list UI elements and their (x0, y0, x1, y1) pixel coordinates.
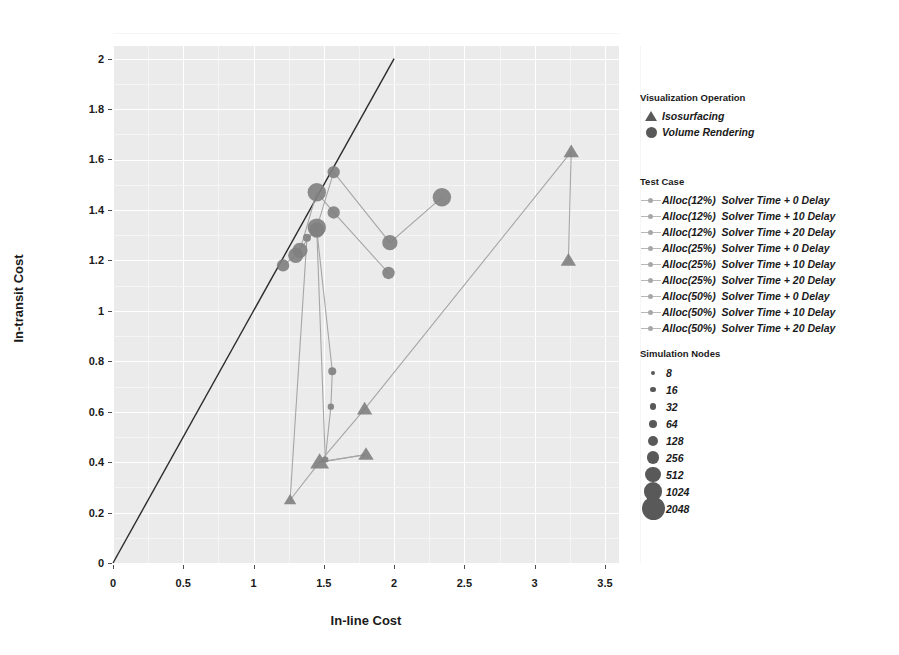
legend-item-simulation-nodes[interactable]: 2048 (640, 500, 720, 517)
legend-item-test-case[interactable]: Alloc(12%) Solver Time + 20 Delay (640, 224, 835, 240)
x-tick-label: 3.5 (597, 577, 612, 589)
legend-key-size-dot (640, 420, 666, 428)
data-point-circle[interactable] (277, 259, 289, 271)
line-marker-icon (641, 275, 661, 285)
y-tick-label: 1.2 (89, 254, 104, 266)
legend-item-simulation-nodes[interactable]: 256 (640, 449, 720, 466)
legend-key-size-dot (640, 387, 666, 392)
legend-label: 128 (666, 435, 684, 447)
legend-key-line (640, 275, 662, 285)
legend-label: Alloc(50%) Solver Time + 20 Delay (662, 322, 835, 334)
data-point-circle[interactable] (382, 267, 394, 279)
y-tick-mark (108, 59, 112, 60)
legend-item-simulation-nodes[interactable]: 8 (640, 364, 720, 381)
legend-key-line (640, 227, 662, 237)
x-tick-label: 0.5 (176, 577, 191, 589)
x-tick-mark (605, 565, 606, 569)
series-line (365, 152, 572, 409)
y-tick-label: 0.6 (89, 406, 104, 418)
legend-item-simulation-nodes[interactable]: 512 (640, 466, 720, 483)
legend-item-simulation-nodes[interactable]: 128 (640, 432, 720, 449)
data-point-circle[interactable] (328, 367, 336, 375)
legend-label: 16 (666, 384, 678, 396)
line-marker-icon (641, 291, 661, 301)
x-tick-label: 3 (532, 577, 538, 589)
legend-item-visualization-operation[interactable]: Volume Rendering (640, 124, 754, 140)
y-tick-mark (108, 361, 112, 362)
y-tick-mark (108, 412, 112, 413)
legend-test-case: Test Case Alloc(12%) Solver Time + 0 Del… (640, 176, 835, 336)
legend-item-simulation-nodes[interactable]: 64 (640, 415, 720, 432)
legend-label: Alloc(25%) Solver Time + 10 Delay (662, 258, 835, 270)
legend-key-line (640, 323, 662, 333)
y-tick-mark (108, 513, 112, 514)
legend-label: 1024 (666, 486, 689, 498)
legend-item-test-case[interactable]: Alloc(50%) Solver Time + 10 Delay (640, 304, 835, 320)
data-point-circle[interactable] (327, 166, 339, 178)
circle-icon (650, 403, 656, 409)
legend-label: Alloc(25%) Solver Time + 20 Delay (662, 274, 835, 286)
data-point-circle[interactable] (327, 206, 339, 218)
y-tick-mark (108, 210, 112, 211)
x-tick-label: 1 (250, 577, 256, 589)
data-point-triangle[interactable] (284, 494, 296, 504)
legend-item-test-case[interactable]: Alloc(12%) Solver Time + 10 Delay (640, 208, 835, 224)
y-tick-label: 2 (98, 53, 104, 65)
legend-key-line (640, 291, 662, 301)
legend-label: 32 (666, 401, 678, 413)
legend-key-size-dot (640, 403, 666, 409)
legend-label: 64 (666, 418, 678, 430)
y-tick-label: 1.8 (89, 103, 104, 115)
legend-item-test-case[interactable]: Alloc(50%) Solver Time + 0 Delay (640, 288, 835, 304)
legend-item-test-case[interactable]: Alloc(50%) Solver Time + 20 Delay (640, 320, 835, 336)
data-point-circle[interactable] (309, 223, 324, 238)
legend-item-simulation-nodes[interactable]: 32 (640, 398, 720, 415)
data-point-triangle[interactable] (561, 253, 576, 266)
series-connector (290, 238, 307, 500)
circle-icon (645, 467, 660, 482)
circle-icon (649, 420, 657, 428)
data-point-triangle[interactable] (564, 145, 579, 158)
data-point-circle[interactable] (308, 183, 326, 201)
circle-icon (647, 451, 659, 463)
triangle-icon (645, 111, 657, 121)
legend-label: Alloc(50%) Solver Time + 10 Delay (662, 306, 835, 318)
data-point-circle[interactable] (292, 243, 307, 258)
gridline-horizontal-minor (113, 33, 619, 34)
legend-item-simulation-nodes[interactable]: 16 (640, 381, 720, 398)
circle-icon (650, 387, 655, 392)
data-point-circle[interactable] (433, 188, 451, 206)
legend-item-test-case[interactable]: Alloc(12%) Solver Time + 0 Delay (640, 192, 835, 208)
x-tick-label: 2 (391, 577, 397, 589)
data-point-triangle[interactable] (357, 402, 372, 415)
legend-label: Volume Rendering (662, 126, 754, 138)
legend-item-visualization-operation[interactable]: Isosurfacing (640, 108, 754, 124)
y-tick-label: 1.4 (89, 204, 104, 216)
y-tick-mark (108, 109, 112, 110)
data-point-circle[interactable] (328, 403, 334, 409)
x-tick-label: 1.5 (316, 577, 331, 589)
legend-item-test-case[interactable]: Alloc(25%) Solver Time + 10 Delay (640, 256, 835, 272)
line-marker-icon (641, 211, 661, 221)
legend-item-test-case[interactable]: Alloc(25%) Solver Time + 20 Delay (640, 272, 835, 288)
data-point-circle[interactable] (303, 234, 311, 242)
legend-item-test-case[interactable]: Alloc(25%) Solver Time + 0 Delay (640, 240, 835, 256)
x-tick-mark (183, 565, 184, 569)
x-axis-label: In-line Cost (113, 613, 619, 628)
legend-label: Alloc(12%) Solver Time + 10 Delay (662, 210, 835, 222)
circle-icon (646, 127, 657, 138)
data-point-circle[interactable] (382, 235, 397, 250)
circle-icon (651, 371, 655, 375)
legend-title-test-case: Test Case (640, 176, 835, 187)
data-layer (113, 46, 619, 563)
circle-icon (642, 497, 665, 520)
chart-root: 00.20.40.60.811.21.41.61.8200.511.522.53… (0, 0, 899, 655)
line-marker-icon (641, 243, 661, 253)
line-marker-icon (641, 227, 661, 237)
legend-key-triangle (640, 111, 662, 121)
legend-key-size-dot (640, 451, 666, 463)
y-axis-label: In-transit Cost (11, 219, 26, 379)
y-tick-label: 0.8 (89, 355, 104, 367)
legend-label: Alloc(25%) Solver Time + 0 Delay (662, 242, 830, 254)
data-point-triangle[interactable] (358, 447, 373, 460)
